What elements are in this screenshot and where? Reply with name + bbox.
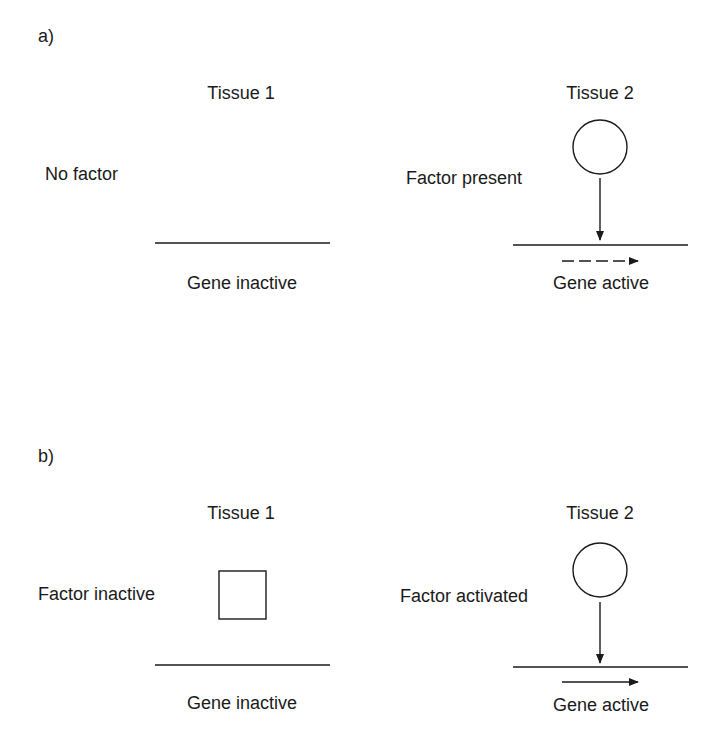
factor-square-icon-b: [219, 571, 266, 619]
diagram-graphics: [0, 0, 713, 740]
factor-circle-icon-b: [573, 543, 627, 597]
factor-circle-icon-a: [573, 120, 627, 174]
